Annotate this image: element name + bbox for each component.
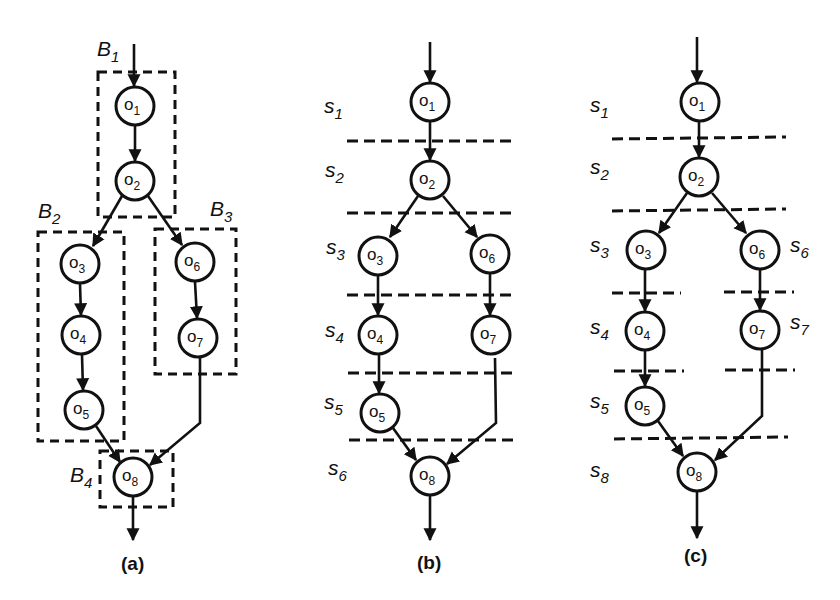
- stage-label-s5: s5: [590, 389, 610, 417]
- edge-o5-o8: [393, 428, 416, 460]
- stage-label-s7: s7: [790, 310, 810, 338]
- panel-caption-a: (a): [121, 553, 144, 574]
- edge-o6-o7: [195, 282, 197, 318]
- node-o3: o3: [627, 231, 665, 269]
- stage-label-s6: s6: [790, 233, 810, 261]
- node-o2: o2: [116, 162, 154, 200]
- node-o1: o1: [411, 83, 449, 121]
- group-label-b4: B4: [70, 463, 92, 491]
- panel-caption-c: (c): [684, 545, 707, 566]
- node-o4: o4: [359, 316, 397, 354]
- stage-separator: [612, 209, 786, 211]
- stage-label-s2: s2: [325, 158, 345, 186]
- node-o4: o4: [62, 316, 100, 354]
- node-o1: o1: [116, 87, 154, 125]
- edge-o2-o6: [712, 193, 746, 233]
- node-o4: o4: [626, 312, 664, 350]
- panel-a: o1 o2 o3 o4 o5 o6 o7 o8 B1 B2 B3 B4 (a): [38, 37, 236, 574]
- edge-o2-o3: [659, 193, 687, 233]
- node-o3: o3: [359, 237, 397, 275]
- edge-o3-o4: [80, 284, 81, 315]
- group-label-b2: B2: [38, 199, 61, 227]
- stage-label-s3: s3: [590, 233, 610, 261]
- node-o6: o6: [741, 231, 779, 269]
- edge-o4-o5: [82, 355, 83, 390]
- stage-label-s1: s1: [324, 94, 343, 122]
- node-o7: o7: [179, 319, 217, 357]
- node-o8: o8: [411, 457, 449, 495]
- panel-b: o1 o2 o3 o4 o5 o6 o7 o8 s1 s2 s3 s4 s5 s…: [324, 42, 515, 573]
- edge-o2-o3: [390, 196, 418, 237]
- node-o2: o2: [411, 161, 449, 199]
- edge-o2-o6: [148, 196, 182, 245]
- node-o1: o1: [681, 83, 719, 121]
- node-o8: o8: [678, 453, 716, 491]
- node-o5: o5: [361, 394, 399, 432]
- node-o8: o8: [114, 458, 152, 496]
- stage-label-s4: s4: [590, 315, 609, 343]
- edge-o5-o8: [96, 426, 120, 462]
- node-o3: o3: [61, 245, 99, 283]
- node-o6: o6: [176, 243, 214, 281]
- edge-o7-o8: [715, 350, 762, 460]
- edge-o2-o3: [93, 196, 122, 246]
- stage-label-s2: s2: [590, 155, 610, 183]
- panel-c: o1 o2 o3 o4 o5 o6 o7 o8 s1 s2 s3 s4 s5 s…: [590, 37, 810, 566]
- node-o2: o2: [680, 158, 718, 196]
- stage-label-s8: s8: [590, 458, 610, 486]
- scheduling-diagram: o1 o2 o3 o4 o5 o6 o7 o8 B1 B2 B3 B4 (a): [0, 0, 840, 600]
- stage-label-s1: s1: [590, 93, 609, 121]
- stage-label-s5: s5: [324, 390, 344, 418]
- node-o7: o7: [472, 316, 510, 354]
- node-o5: o5: [626, 387, 664, 425]
- group-label-b1: B1: [97, 37, 119, 65]
- stage-separator: [614, 437, 788, 439]
- node-o6: o6: [471, 235, 509, 273]
- panel-caption-b: (b): [417, 552, 441, 573]
- stage-label-s4: s4: [325, 318, 344, 346]
- node-o5: o5: [65, 391, 103, 429]
- stage-label-s3: s3: [326, 235, 346, 263]
- group-label-b3: B3: [210, 197, 233, 225]
- stage-label-s6: s6: [328, 456, 348, 484]
- edge-o5-o8: [658, 421, 683, 456]
- node-o7: o7: [741, 311, 779, 349]
- edge-o2-o6: [443, 196, 477, 237]
